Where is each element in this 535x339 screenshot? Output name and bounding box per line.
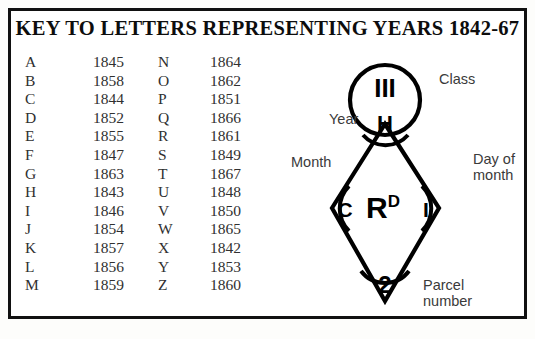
table-row: D 1852 Q 1866 [17,109,277,128]
year-cell: 1862 [210,72,241,91]
label-parcel-line1: Parcel [423,277,472,293]
letter-cell: N [158,53,169,72]
day-value: I [423,198,429,221]
letter-cell: C [25,90,35,109]
year-cell: 1851 [210,90,241,109]
year-cell: 1848 [210,183,241,202]
label-parcel-line2: number [423,293,472,309]
year-cell: 1867 [210,165,241,184]
table-row: H 1843 U 1848 [17,183,277,202]
page-root: KEY TO LETTERS REPRESENTING YEARS 1842-6… [0,0,535,339]
label-day-line2: month [473,167,515,183]
letter-cell: A [25,53,36,72]
parcel-value: 2 [378,271,391,298]
label-class: Class [439,71,475,87]
year-cell: 1849 [210,146,241,165]
letter-cell: S [158,146,167,165]
table-row: I 1846 V 1850 [17,202,277,221]
year-cell: 1853 [210,258,241,277]
letter-cell: K [25,239,36,258]
year-cell: 1847 [93,146,124,165]
year-cell: 1855 [93,127,124,146]
table-row: F 1847 S 1849 [17,146,277,165]
letter-cell: X [158,239,169,258]
year-cell: 1850 [210,202,241,221]
year-cell: 1861 [210,127,241,146]
letter-cell: T [158,165,167,184]
letter-cell: Y [158,258,169,277]
letter-cell: D [25,109,36,128]
table-row: L 1856 Y 1853 [17,258,277,277]
letter-cell: Q [158,109,169,128]
page-title: KEY TO LETTERS REPRESENTING YEARS 1842-6… [11,17,524,40]
year-cell: 1866 [210,109,241,128]
letter-cell: H [25,183,36,202]
class-value: III [374,73,396,103]
registered-monogram: RD [366,191,400,224]
registration-diamond-diagram: III H C I 2 RD Class Year Month Day of m… [287,55,527,317]
label-parcel-number: Parcel number [423,277,472,309]
year-cell: 1844 [93,90,124,109]
year-cell: 1858 [93,72,124,91]
table-row: C 1844 P 1851 [17,90,277,109]
year-cell: 1842 [210,239,241,258]
letter-cell: I [25,202,30,221]
year-cell: 1845 [93,53,124,72]
year-cell: 1859 [93,276,124,295]
year-cell: 1856 [93,258,124,277]
year-value: H [377,111,393,136]
letter-cell: P [158,90,167,109]
year-cell: 1852 [93,109,124,128]
table-row: J 1854 W 1865 [17,220,277,239]
label-day-of-month: Day of month [473,151,515,183]
letter-cell: V [158,202,169,221]
letter-cell: W [158,220,173,239]
letter-cell: Z [158,276,167,295]
year-cell: 1863 [93,165,124,184]
year-cell: 1846 [93,202,124,221]
table-row: A 1845 N 1864 [17,53,277,72]
letter-cell: M [25,276,39,295]
label-year: Year [329,111,358,127]
year-cell: 1857 [93,239,124,258]
table-row: M 1859 Z 1860 [17,276,277,295]
year-cell: 1860 [210,276,241,295]
letter-cell: E [25,127,34,146]
letter-cell: L [25,258,34,277]
diamond-mark-svg: III H C I 2 RD [287,55,527,317]
letter-cell: U [158,183,169,202]
letter-cell: F [25,146,34,165]
letter-cell: J [25,220,31,239]
letter-cell: O [158,72,169,91]
framed-plate: KEY TO LETTERS REPRESENTING YEARS 1842-6… [8,8,527,319]
label-day-line1: Day of [473,151,515,167]
label-month: Month [291,154,331,170]
letter-cell: R [158,127,168,146]
year-cell: 1864 [210,53,241,72]
letter-year-key-table: A 1845 N 1864 B 1858 O 1862 C 1844 P 185… [17,53,277,295]
year-cell: 1843 [93,183,124,202]
table-row: G 1863 T 1867 [17,165,277,184]
letter-cell: B [25,72,35,91]
table-row: E 1855 R 1861 [17,127,277,146]
year-cell: 1865 [210,220,241,239]
table-row: B 1858 O 1862 [17,72,277,91]
year-cell: 1854 [93,220,124,239]
month-value: C [337,198,352,221]
letter-cell: G [25,165,36,184]
table-row: K 1857 X 1842 [17,239,277,258]
